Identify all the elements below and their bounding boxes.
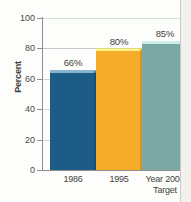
x-tick-label-1986-line1: 1986 — [63, 174, 82, 184]
y-tick-60 — [37, 79, 42, 80]
y-tick-label-0: 0 — [5, 165, 35, 175]
y-tick-label-100: 100 — [5, 13, 35, 23]
y-tick-80 — [37, 48, 42, 49]
scan-margin-right — [181, 0, 191, 202]
y-tick-0 — [37, 170, 42, 171]
x-tick-label-year-2000-line1: Year 2000 — [146, 174, 185, 184]
y-tick-label-0-wrap: 0 — [0, 165, 35, 175]
x-axis-line — [42, 170, 181, 171]
bar-fill — [96, 51, 142, 170]
data-label-1986: 66% — [50, 57, 96, 68]
y-tick-100 — [37, 18, 42, 19]
x-tick-label-1995-line1: 1995 — [109, 174, 128, 184]
y-axis-line — [42, 17, 43, 171]
gridline-100 — [42, 18, 180, 19]
bar-1986[interactable] — [50, 70, 96, 170]
y-axis-title: Percent — [13, 47, 23, 107]
y-tick-20 — [37, 140, 42, 141]
bar-1995[interactable] — [96, 48, 142, 170]
data-label-1995: 80% — [96, 36, 142, 47]
bar-fill — [50, 73, 96, 170]
y-tick-label-100-wrap: 100 — [0, 13, 35, 23]
bar-chart: 100 80 60 40 20 0 Percent 66% 80% 85% 19… — [0, 0, 191, 202]
y-tick-40 — [37, 109, 42, 110]
y-tick-label-20-wrap: 20 — [0, 135, 35, 145]
y-tick-label-20: 20 — [5, 135, 35, 145]
